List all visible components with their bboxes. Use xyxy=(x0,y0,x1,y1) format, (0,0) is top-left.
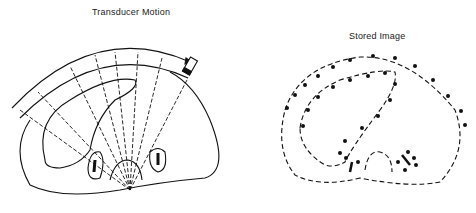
right-panel xyxy=(282,57,460,184)
stored-echo-points xyxy=(285,54,467,172)
body-outline xyxy=(20,72,219,194)
stored-spine xyxy=(365,152,392,172)
dotted-body-outline xyxy=(282,57,460,184)
left-panel xyxy=(12,48,219,194)
diagram-canvas xyxy=(0,0,476,213)
organ-outline xyxy=(43,79,136,168)
